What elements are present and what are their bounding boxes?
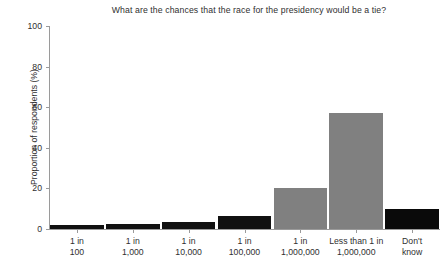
bar bbox=[162, 222, 216, 229]
y-tick-label: 60 bbox=[5, 102, 47, 112]
y-tick-mark bbox=[46, 229, 49, 230]
y-tick-mark bbox=[46, 148, 49, 149]
y-tick: 40 bbox=[5, 143, 47, 153]
bar bbox=[385, 209, 439, 229]
y-tick: 60 bbox=[5, 102, 47, 112]
y-axis-label: Proportion of respondents (%) bbox=[29, 27, 39, 227]
y-tick-mark bbox=[46, 67, 49, 68]
x-tick-mark bbox=[356, 230, 357, 233]
bar bbox=[329, 113, 383, 229]
x-tick-label: Don'tknow bbox=[378, 236, 443, 258]
y-tick-label: 0 bbox=[5, 224, 47, 234]
x-tick-mark bbox=[412, 230, 413, 233]
y-tick-label: 20 bbox=[5, 183, 47, 193]
x-tick-mark bbox=[133, 230, 134, 233]
y-tick-mark bbox=[46, 26, 49, 27]
bar bbox=[274, 188, 328, 229]
y-tick: 80 bbox=[5, 62, 47, 72]
y-tick: 20 bbox=[5, 183, 47, 193]
x-tick-mark bbox=[77, 230, 78, 233]
y-tick-label: 80 bbox=[5, 62, 47, 72]
y-tick: 0 bbox=[5, 224, 47, 234]
bar bbox=[218, 216, 272, 229]
y-axis-line bbox=[49, 26, 50, 230]
y-tick: 100 bbox=[5, 21, 47, 31]
x-tick-mark bbox=[189, 230, 190, 233]
y-tick-label: 100 bbox=[5, 21, 47, 31]
x-tick-mark bbox=[300, 230, 301, 233]
x-tick-label-group: 1 in1001 in1,0001 in10,0001 in100,0001 i… bbox=[49, 236, 440, 266]
chart-title: What are the chances that the race for t… bbox=[55, 5, 443, 16]
y-tick-mark bbox=[46, 107, 49, 108]
y-tick-label: 40 bbox=[5, 143, 47, 153]
y-tick-mark bbox=[46, 188, 49, 189]
bar bbox=[106, 224, 160, 229]
bar bbox=[50, 225, 104, 229]
bar-chart: What are the chances that the race for t… bbox=[0, 0, 443, 269]
plot-area: 020406080100 bbox=[49, 26, 440, 230]
x-tick-mark bbox=[245, 230, 246, 233]
